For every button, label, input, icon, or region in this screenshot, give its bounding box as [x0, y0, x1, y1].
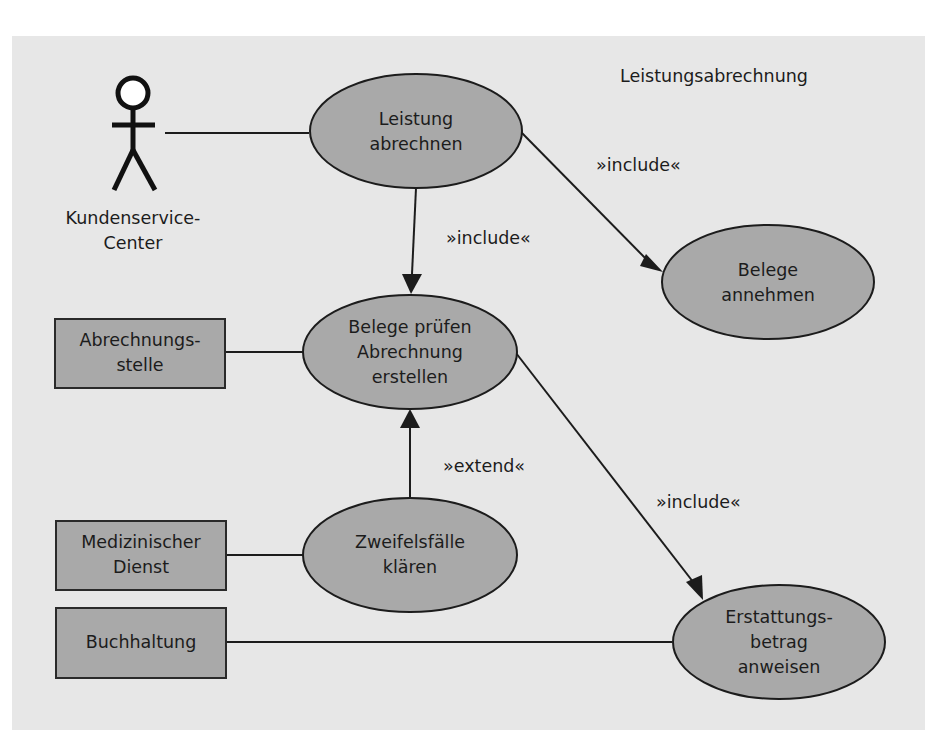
actor-label-line: Center: [58, 231, 208, 256]
use-case-label-line: abrechnen: [316, 132, 516, 157]
actor-label-medizinischer-dienst: Medizinischer Dienst: [55, 530, 227, 580]
actor-label-buchhaltung: Buchhaltung: [55, 630, 227, 655]
actor-label-line: stelle: [54, 353, 226, 378]
include-arrow-line-3: [516, 353, 697, 587]
actor-label-line: Medizinischer: [55, 530, 227, 555]
use-case-label-line: Belege: [668, 258, 868, 283]
use-case-label-erstattungsbetrag-anweisen: Erstattungs- betrag anweisen: [679, 605, 879, 680]
stereotype-extend-label: »extend«: [443, 456, 525, 476]
use-case-label-belege-annehmen: Belege annehmen: [668, 258, 868, 308]
use-case-label-line: Belege prüfen: [310, 315, 510, 340]
actor-label-line: Dienst: [55, 555, 227, 580]
use-case-label-line: Abrechnung: [310, 340, 510, 365]
arrowhead-up-icon: [400, 409, 420, 428]
stereotype-include-label: »include«: [656, 492, 741, 512]
include-arrow-line-2: [521, 132, 652, 265]
use-case-label-line: Leistung: [316, 107, 516, 132]
stereotype-include-label: »include«: [596, 155, 681, 175]
use-case-diagram: Leistungsabrechnung Kundenservice- Cente…: [0, 0, 946, 742]
actor-label-abrechnungsstelle: Abrechnungs- stelle: [54, 328, 226, 378]
use-case-label-zweifelsfaelle-klaeren: Zweifelsfälle klären: [310, 530, 510, 580]
use-case-label-leistung-abrechnen: Leistung abrechnen: [316, 107, 516, 157]
actor-label-line: Abrechnungs-: [54, 328, 226, 353]
use-case-label-line: Erstattungs-: [679, 605, 879, 630]
actor-label-kundenservice: Kundenservice- Center: [58, 206, 208, 256]
use-case-label-line: klären: [310, 555, 510, 580]
actor-label-line: Buchhaltung: [55, 630, 227, 655]
arrowhead-down-icon: [402, 274, 422, 294]
actor-label-line: Kundenservice-: [58, 206, 208, 231]
use-case-label-line: anweisen: [679, 655, 879, 680]
stereotype-include-label: »include«: [446, 228, 531, 248]
use-case-label-line: erstellen: [310, 365, 510, 390]
use-case-label-line: annehmen: [668, 283, 868, 308]
arrowhead-diagonal-icon: [686, 575, 703, 600]
actor-stick-figure-icon[interactable]: [112, 78, 155, 190]
system-boundary-title: Leistungsabrechnung: [620, 66, 808, 86]
use-case-label-line: betrag: [679, 630, 879, 655]
use-case-label-belege-pruefen: Belege prüfen Abrechnung erstellen: [310, 315, 510, 390]
include-arrow-line-1: [412, 188, 416, 274]
use-case-label-line: Zweifelsfälle: [310, 530, 510, 555]
